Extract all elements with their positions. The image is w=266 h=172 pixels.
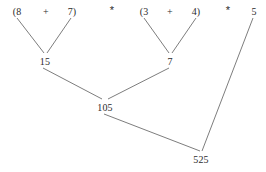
node-value-525: 525 [193,154,209,165]
token-multiply-operator-2: * [226,5,230,16]
token-open-paren-3: (3 [140,6,149,17]
edge-15-to-105 [43,68,102,99]
node-value-15: 15 [40,56,50,67]
edge-layer [0,0,266,172]
token-7-close-paren: 7) [68,6,77,17]
edge-105-to-525 [104,114,200,151]
token-5: 5 [251,6,256,17]
edge-7-to-105 [108,68,169,99]
token-plus-operator-2: + [167,6,173,17]
node-value-105: 105 [97,102,113,113]
token-open-paren-8: (8 [13,6,22,17]
expression-tree-diagram: (8 + 7) * (3 + 4) * 5 15 7 105 525 [0,0,266,172]
token-plus-operator-1: + [43,6,49,17]
edge-3-to-7 [144,18,169,53]
token-multiply-operator-1: * [110,5,114,16]
edge-7-to-15 [47,18,71,53]
edge-8-to-15 [17,18,44,53]
node-value-7: 7 [167,56,172,67]
edge-5-to-525 [202,18,253,151]
edge-4-to-7 [172,18,196,53]
token-4-close-paren: 4) [192,6,201,17]
